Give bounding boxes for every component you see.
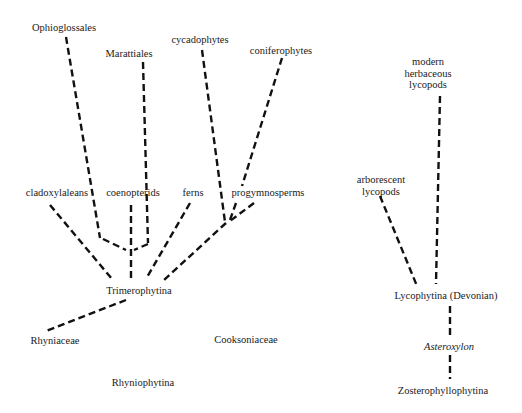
label-line: arborescent xyxy=(357,174,405,186)
edge-marattiales-junction xyxy=(134,244,148,250)
label-coniferophytes: coniferophytes xyxy=(250,45,312,57)
edge-cycadophytes xyxy=(202,50,225,222)
edge-marattiales xyxy=(143,62,148,243)
label-lycophytina: Lycophytina (Devonian) xyxy=(395,290,498,302)
label-ophioglossales: Ophioglossales xyxy=(32,22,96,34)
label-marattiales: Marattiales xyxy=(105,48,152,60)
label-trimerophytina: Trimerophytina xyxy=(106,285,172,297)
edge-cladoxylaleans xyxy=(50,205,112,279)
label-asteroxylon: Asteroxylon xyxy=(424,341,474,353)
label-arborescent-lycopods: arborescent lycopods xyxy=(357,174,405,197)
label-cycadophytes: cycadophytes xyxy=(171,34,228,46)
label-rhyniophytina: Rhyniophytina xyxy=(112,377,174,389)
label-line: modern xyxy=(404,56,451,68)
label-line: lycopods xyxy=(357,186,405,198)
label-zosterophyllophytina: Zosterophyllophytina xyxy=(398,385,488,397)
edge-arborescent-lycopods xyxy=(380,196,417,286)
label-modern-herbaceous-lycopods: modern herbaceous lycopods xyxy=(404,56,451,91)
label-coenopterids: coenopterids xyxy=(106,187,160,199)
edge-modern-lycopods xyxy=(436,96,440,284)
label-progymnosperms: progymnosperms xyxy=(232,187,305,199)
edge-ferns xyxy=(146,203,190,279)
edge-coniferophytes xyxy=(242,58,282,186)
label-cooksoniaceae: Cooksoniaceae xyxy=(214,334,278,346)
phylogeny-diagram: Ophioglossales Marattiales cycadophytes … xyxy=(0,0,522,413)
label-cladoxylaleans: cladoxylaleans xyxy=(26,187,88,199)
label-line: lycopods xyxy=(404,79,451,91)
edge-trimerophytina-rhyniaceae xyxy=(46,300,126,331)
label-rhyniaceae: Rhyniaceae xyxy=(31,335,80,347)
edge-ophioglossales xyxy=(66,37,100,238)
label-line: herbaceous xyxy=(404,68,451,80)
edge-ophioglossales-junction xyxy=(103,239,126,250)
label-ferns: ferns xyxy=(183,187,204,199)
edge-progymnosperms xyxy=(230,203,254,221)
